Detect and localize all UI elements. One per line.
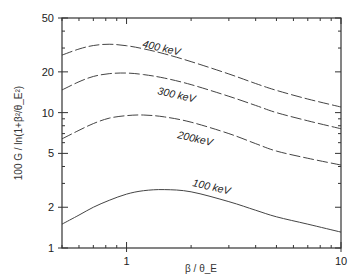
y-tick-label: 2	[48, 201, 54, 213]
curve-label: 300 keV	[157, 84, 198, 105]
x-axis-title: β / θ_E	[185, 263, 217, 274]
x-tick-label: 10	[335, 255, 347, 267]
curve-100kev	[62, 190, 341, 233]
curve-labels: 400 keV300 keV200keV100 keV	[142, 37, 233, 197]
curve-label: 200keV	[176, 128, 215, 148]
y-tick-label: 5	[48, 147, 54, 159]
y-tick-label: 1	[48, 242, 54, 254]
y-axis-title: 100 G / ln(1+β²/θ_E²)	[13, 86, 24, 180]
curve-300kev	[62, 73, 341, 129]
curve-400kev	[62, 44, 341, 107]
curve-label: 400 keV	[142, 37, 183, 58]
y-tick-label: 10	[42, 107, 54, 119]
y-tick-label: 50	[42, 12, 54, 24]
x-tick-label: 1	[123, 255, 129, 267]
chart: 110125102050 400 keV300 keV200keV100 keV…	[0, 0, 357, 280]
y-tick-label: 20	[42, 66, 54, 78]
